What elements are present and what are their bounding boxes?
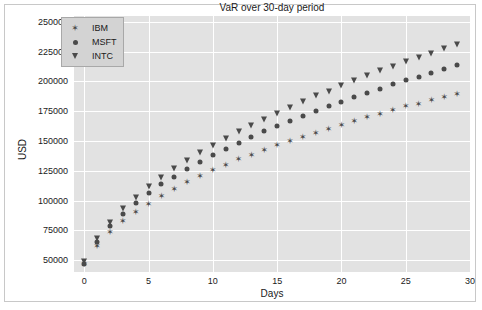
triangle-down-icon — [377, 68, 383, 74]
gridline-horizontal — [74, 52, 470, 53]
data-point-ibm: ✶ — [235, 157, 243, 161]
data-point-ibm: ✶ — [338, 123, 346, 127]
triangle-down-icon — [197, 149, 203, 155]
circle-icon — [236, 140, 241, 145]
x-tick-label: 15 — [257, 276, 297, 286]
data-point-msft — [326, 103, 331, 108]
y-tick-label: 250000 — [6, 17, 68, 27]
triangle-down-icon — [441, 46, 447, 52]
triangle-down-icon — [210, 142, 216, 148]
legend-item-intc[interactable]: INTC — [66, 49, 117, 63]
data-point-msft — [236, 140, 241, 145]
triangle-down-icon — [66, 49, 84, 63]
gridline-vertical — [149, 16, 150, 272]
data-point-intc — [326, 89, 332, 94]
triangle-down-icon — [184, 157, 190, 163]
triangle-down-icon — [248, 122, 254, 128]
chart-title: VaR over 30-day period — [74, 2, 470, 13]
data-point-msft — [249, 134, 254, 139]
data-point-intc — [171, 167, 177, 172]
triangle-down-icon — [300, 99, 306, 105]
data-point-ibm: ✶ — [132, 210, 140, 214]
x-tick-label: 0 — [64, 276, 104, 286]
circle-icon — [133, 200, 138, 205]
star-icon: ✶ — [132, 210, 140, 214]
data-point-ibm: ✶ — [106, 230, 114, 234]
data-point-msft — [352, 94, 357, 99]
data-point-ibm: ✶ — [415, 102, 423, 106]
legend-item-msft[interactable]: MSFT — [66, 35, 117, 49]
triangle-down-icon — [428, 50, 434, 56]
data-point-ibm: ✶ — [376, 112, 384, 116]
chart-figure: VaR over 30-day period ✶✶✶✶✶✶✶✶✶✶✶✶✶✶✶✶✶… — [0, 0, 482, 310]
data-point-msft — [262, 129, 267, 134]
data-point-intc — [364, 74, 370, 79]
data-point-ibm: ✶ — [145, 202, 153, 206]
circle-icon — [339, 99, 344, 104]
star-icon: ✶ — [248, 153, 256, 157]
data-point-msft — [365, 90, 370, 95]
data-point-msft — [210, 153, 215, 158]
star-icon: ✶ — [222, 163, 230, 167]
circle-icon — [185, 167, 190, 172]
data-point-msft — [146, 191, 151, 196]
triangle-down-icon — [364, 73, 370, 79]
gridline-horizontal — [74, 141, 470, 142]
star-icon: ✶ — [119, 219, 127, 223]
gridline-horizontal — [74, 111, 470, 112]
star-icon: ✶ — [338, 123, 346, 127]
circle-icon — [390, 82, 395, 87]
legend-label: IBM — [92, 23, 108, 33]
data-point-ibm: ✶ — [325, 127, 333, 131]
triangle-down-icon — [158, 174, 164, 180]
triangle-down-icon — [274, 110, 280, 116]
gridline-horizontal — [74, 171, 470, 172]
data-point-ibm: ✶ — [222, 163, 230, 167]
data-point-intc — [390, 64, 396, 69]
legend-item-ibm[interactable]: ✶IBM — [66, 21, 117, 35]
data-point-intc — [428, 51, 434, 56]
data-point-intc — [120, 207, 126, 212]
y-axis-title: USD — [17, 120, 28, 180]
star-icon: ✶ — [158, 194, 166, 198]
data-point-msft — [429, 70, 434, 75]
circle-icon — [442, 66, 447, 71]
y-tick-label: 175000 — [6, 106, 68, 116]
circle-icon — [288, 118, 293, 123]
data-point-intc — [338, 84, 344, 89]
data-point-msft — [159, 182, 164, 187]
star-icon: ✶ — [402, 104, 410, 108]
data-point-msft — [275, 124, 280, 129]
data-point-ibm: ✶ — [171, 187, 179, 191]
triangle-down-icon — [120, 206, 126, 212]
data-point-intc — [441, 47, 447, 52]
data-point-ibm: ✶ — [453, 92, 461, 96]
y-tick-label: 125000 — [6, 166, 68, 176]
circle-icon — [416, 74, 421, 79]
data-point-msft — [442, 66, 447, 71]
data-point-intc — [313, 94, 319, 99]
data-point-intc — [248, 123, 254, 128]
x-tick-label: 10 — [193, 276, 233, 286]
triangle-down-icon — [416, 54, 422, 60]
circle-icon — [249, 134, 254, 139]
data-point-msft — [339, 99, 344, 104]
star-icon: ✶ — [389, 108, 397, 112]
data-point-intc — [351, 78, 357, 83]
data-point-ibm: ✶ — [428, 98, 436, 102]
data-point-intc — [377, 69, 383, 74]
data-point-msft — [455, 63, 460, 68]
star-icon: ✶ — [312, 131, 320, 135]
star-icon: ✶ — [453, 92, 461, 96]
data-point-ibm: ✶ — [363, 115, 371, 119]
data-point-intc — [133, 195, 139, 200]
star-icon: ✶ — [441, 95, 449, 99]
gridline-horizontal — [74, 81, 470, 82]
data-point-ibm: ✶ — [299, 135, 307, 139]
data-point-ibm: ✶ — [273, 143, 281, 147]
circle-icon — [275, 124, 280, 129]
gridline-horizontal — [74, 230, 470, 231]
data-point-ibm: ✶ — [119, 219, 127, 223]
circle-icon — [146, 191, 151, 196]
triangle-down-icon — [351, 77, 357, 83]
